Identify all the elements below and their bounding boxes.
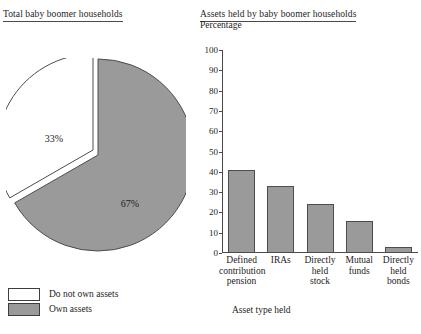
- y-tick-mark: [219, 131, 222, 132]
- bar-5: [385, 247, 412, 253]
- legend-item-own-assets: Own assets: [8, 302, 118, 317]
- pie-svg: 33% 67%: [6, 58, 186, 253]
- y-tick-label: 90: [209, 66, 218, 75]
- y-tick-mark: [219, 70, 222, 71]
- y-tick-label: 50: [209, 147, 218, 156]
- y-tick-mark: [219, 192, 222, 193]
- legend-item-do-not-own-assets: Do not own assets: [8, 287, 118, 302]
- pie-label-own: 67%: [121, 198, 139, 209]
- y-tick-label: 70: [209, 106, 218, 115]
- y-tick-label: 80: [209, 86, 218, 95]
- y-tick-label: 10: [209, 228, 218, 237]
- x-category-label-5: Directlyheldbonds: [376, 255, 421, 287]
- pie-chart-title: Total baby boomer households: [3, 9, 123, 22]
- pie-label-do-not-own: 33%: [45, 133, 63, 144]
- y-axis-line: [222, 50, 223, 253]
- y-tick-label: 20: [209, 208, 218, 217]
- y-tick-label: 30: [209, 188, 218, 197]
- y-tick-mark: [219, 91, 222, 92]
- y-tick-mark: [219, 50, 222, 51]
- legend-label-own-assets: Own assets: [49, 303, 92, 316]
- y-tick-mark: [219, 212, 222, 213]
- pie-chart-panel: Total baby boomer households 33% 67% Do …: [0, 0, 200, 334]
- y-tick-mark: [219, 152, 222, 153]
- y-tick-mark: [219, 111, 222, 112]
- pie-title-container: Total baby boomer households: [3, 3, 123, 22]
- pie-legend: Do not own assets Own assets: [8, 287, 118, 317]
- bar-plot-area: 0102030405060708090100 Definedcontributi…: [222, 50, 418, 253]
- y-axis-label: Percentage: [200, 20, 242, 30]
- bar-3: [307, 204, 334, 253]
- y-tick-mark: [219, 233, 222, 234]
- y-tick-mark: [219, 253, 222, 254]
- legend-label-do-not-own-assets: Do not own assets: [49, 288, 118, 301]
- bar-2: [267, 186, 294, 253]
- y-tick-label: 60: [209, 127, 218, 136]
- bar-chart-graphic: Percentage 0102030405060708090100 Define…: [196, 0, 421, 334]
- pie-chart-graphic: 33% 67%: [6, 58, 186, 253]
- y-tick-mark: [219, 172, 222, 173]
- legend-swatch-gray: [8, 303, 40, 316]
- y-tick-label: 0: [214, 249, 219, 258]
- y-tick-label: 40: [209, 167, 218, 176]
- bar-chart-panel: Assets held by baby boomer households Pe…: [196, 0, 421, 334]
- x-axis-label: Asset type held: [232, 305, 291, 315]
- bar-1: [228, 170, 255, 253]
- legend-swatch-white: [8, 288, 40, 301]
- y-tick-label: 100: [205, 46, 219, 55]
- bar-4: [346, 221, 373, 253]
